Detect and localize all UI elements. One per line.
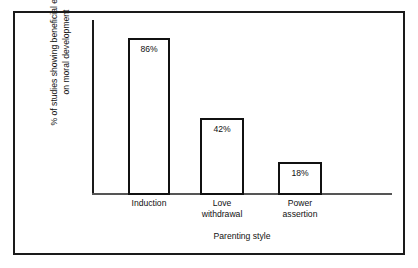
chart-frame: on moral development % of studies showin…: [13, 11, 405, 255]
plot-area: on moral development % of studies showin…: [15, 13, 403, 253]
y-axis-title-line1: % of studies showing beneficial effects: [49, 0, 61, 126]
bar-value-induction: 86%: [130, 44, 168, 54]
bar-induction[interactable]: 86%: [128, 38, 170, 195]
y-axis-title-line2: on moral development: [61, 10, 73, 95]
figure: on moral development % of studies showin…: [0, 0, 418, 268]
y-axis-title: on moral development % of studies showin…: [49, 0, 75, 127]
category-label-love-withdrawal: Love withdrawal: [184, 198, 260, 219]
x-axis-title: Parenting style: [92, 231, 392, 241]
bar-love-withdrawal[interactable]: 42%: [200, 118, 244, 195]
bar-value-love-withdrawal: 42%: [202, 124, 242, 134]
category-label-power-assertion: Power assertion: [262, 198, 338, 219]
bar-value-power-assertion: 18%: [280, 168, 320, 178]
category-label-induction: Induction: [111, 198, 187, 209]
y-axis-line: [92, 20, 94, 195]
bar-power-assertion[interactable]: 18%: [278, 162, 322, 195]
